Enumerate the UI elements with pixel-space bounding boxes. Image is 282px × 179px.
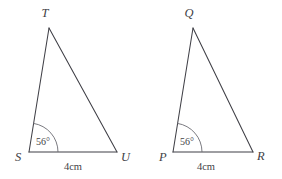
triangles-diagram: 56° S T U 4cm 56° P Q R 4cm [0, 0, 282, 179]
side-label-pr: 4cm [197, 161, 215, 172]
edge-q-r [193, 28, 253, 152]
edge-t-u [49, 28, 117, 152]
edge-s-t [29, 28, 49, 152]
vertex-label-p: P [158, 150, 167, 164]
vertex-label-u: U [121, 150, 131, 164]
triangle-pqr: 56° P Q R 4cm [158, 6, 265, 172]
angle-label-p: 56° [180, 136, 194, 147]
vertex-label-r: R [256, 149, 265, 163]
vertex-label-t: T [42, 6, 50, 20]
side-label-su: 4cm [64, 161, 82, 172]
geometry-figure: 56° S T U 4cm 56° P Q R 4cm [0, 0, 282, 179]
edge-p-q [173, 28, 193, 152]
vertex-label-s: S [15, 150, 22, 164]
angle-label-s: 56° [36, 136, 50, 147]
triangle-stu: 56° S T U 4cm [15, 6, 131, 172]
vertex-label-q: Q [184, 6, 193, 20]
